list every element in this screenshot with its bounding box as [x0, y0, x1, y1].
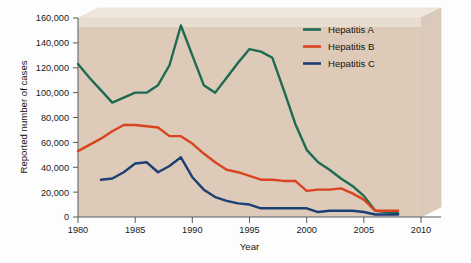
legend-label-hepatitis-b: Hepatitis B	[328, 41, 374, 52]
x-tick-label: 1980	[68, 225, 88, 235]
y-tick-label: 100,000	[36, 88, 69, 98]
y-tick-label: 160,000	[36, 13, 69, 23]
x-tick-label: 1990	[182, 225, 202, 235]
chart-legend: Hepatitis A Hepatitis B Hepatitis C	[303, 24, 375, 69]
x-tick-label: 2000	[296, 225, 316, 235]
x-tick-label: 2005	[354, 225, 374, 235]
y-tick-label: 80,000	[41, 113, 69, 123]
y-tick-label: 40,000	[41, 163, 69, 173]
x-tick-label: 2010	[411, 225, 431, 235]
x-tick-label: 1995	[239, 225, 259, 235]
hepatitis-cases-line-chart: 160,000 140,000 120,000 100,000 80,000 6…	[0, 0, 471, 263]
chart-figure: 160,000 140,000 120,000 100,000 80,000 6…	[0, 0, 471, 263]
y-tick-label: 120,000	[36, 63, 69, 73]
x-tick-label: 1985	[125, 225, 145, 235]
x-axis-tick-labels: 1980 1985 1990 1995 2000 2005 2010	[68, 225, 431, 235]
y-axis-tick-labels: 160,000 140,000 120,000 100,000 80,000 6…	[36, 13, 69, 222]
y-tick-label: 140,000	[36, 38, 69, 48]
x-axis-ticks	[78, 217, 421, 223]
y-tick-label: 0	[64, 212, 69, 222]
x-axis-title: Year	[240, 241, 260, 252]
y-tick-label: 20,000	[41, 188, 69, 198]
y-axis-title: Reported number of cases	[18, 60, 29, 173]
legend-label-hepatitis-c: Hepatitis C	[328, 58, 375, 69]
y-tick-label: 60,000	[41, 138, 69, 148]
y-axis-ticks	[73, 18, 78, 217]
legend-label-hepatitis-a: Hepatitis A	[328, 24, 374, 35]
plot-slab-top-face	[78, 8, 441, 18]
plot-slab-right-face	[421, 8, 441, 217]
